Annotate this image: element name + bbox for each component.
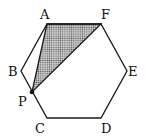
label-b: B [8,64,18,79]
label-e: E [128,64,138,79]
hexagon-diagram: A F E D C B P [0,0,145,139]
label-f: F [101,7,110,22]
point-p-dot [30,90,35,95]
label-d: D [101,121,111,136]
label-c: C [35,121,45,136]
label-a: A [39,7,50,22]
shaded-triangle-afp [32,24,101,92]
label-p: P [18,94,27,109]
